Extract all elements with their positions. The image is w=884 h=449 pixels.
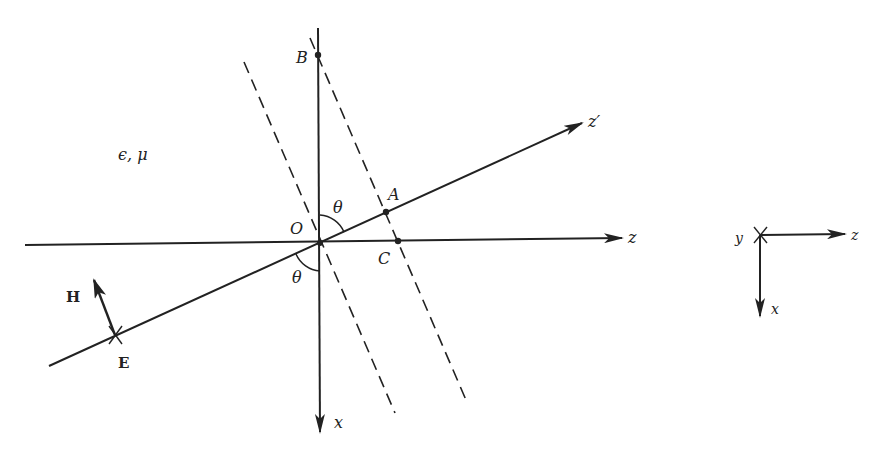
frame-y-label: y: [734, 230, 744, 246]
angle-arc-upper: [320, 215, 344, 232]
point-B-dot: [315, 52, 321, 58]
point-A-dot: [383, 209, 389, 215]
point-C-dot: [395, 238, 401, 244]
x-axis-label: x: [334, 413, 343, 432]
z-axis-label: z: [627, 228, 637, 247]
frame-x-label: x: [771, 301, 779, 317]
wave-diagram: ϵ, μ B O A C θ θ z′ z x H E y z x: [0, 0, 884, 449]
angle-lower-label: θ: [292, 268, 302, 287]
point-A-label: A: [386, 185, 400, 204]
point-O-dot: [317, 240, 323, 246]
H-field-label: H: [66, 288, 80, 306]
E-field-cross-icon: [109, 326, 122, 344]
z-prime-axis-label: z′: [587, 112, 600, 131]
point-B-label: B: [295, 48, 308, 67]
point-C-label: C: [378, 249, 390, 268]
x-axis: [318, 28, 320, 432]
E-field-label: E: [118, 354, 129, 372]
medium-label: ϵ, μ: [118, 145, 148, 164]
point-O-label: O: [290, 219, 303, 238]
frame-z-label: z: [850, 227, 859, 243]
coordinate-frame: y z x: [734, 227, 859, 317]
H-field-vector: [94, 280, 115, 335]
angle-upper-label: θ: [333, 198, 343, 217]
